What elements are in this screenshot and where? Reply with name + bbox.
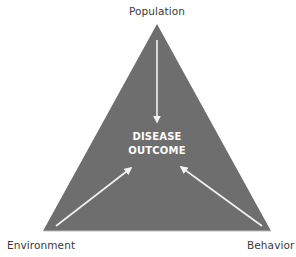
center-label-line1: DISEASE [107,130,207,144]
epidemiologic-triangle-diagram [0,0,296,257]
center-label-disease-outcome: DISEASE OUTCOME [107,130,207,158]
label-population: Population [0,5,296,17]
label-behavior: Behavior [247,239,294,251]
label-environment: Environment [7,239,75,251]
center-label-line2: OUTCOME [107,144,207,158]
